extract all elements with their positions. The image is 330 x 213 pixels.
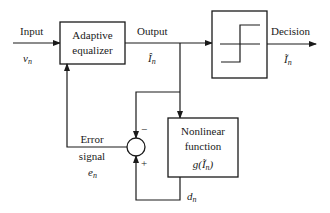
input-label: Input [20, 25, 43, 37]
desired-symbol: dn [187, 190, 197, 204]
error-label-line2: signal [79, 150, 105, 162]
output-symbol: În [147, 52, 156, 66]
input-symbol: vn [23, 52, 32, 66]
summer-plus-sign: + [141, 157, 147, 169]
nonlinear-label-line2: function [185, 140, 222, 152]
nonlinear-label-line3: g(Ĩn) [193, 158, 214, 172]
error-symbol: en [88, 166, 97, 180]
equalizer-label-line1: Adaptive [72, 29, 112, 41]
summer-minus-sign: − [141, 123, 147, 135]
summing-junction [127, 138, 145, 156]
output-label: Output [137, 25, 168, 37]
decision-symbol: Ĩn [283, 53, 292, 67]
nonlinear-label-line1: Nonlinear [181, 125, 225, 137]
error-label-line1: Error [80, 133, 104, 145]
decision-label: Decision [271, 25, 311, 37]
equalizer-label-line2: equalizer [72, 44, 113, 56]
block-diagram: Input vn Adaptive equalizer Output În De… [0, 0, 330, 213]
